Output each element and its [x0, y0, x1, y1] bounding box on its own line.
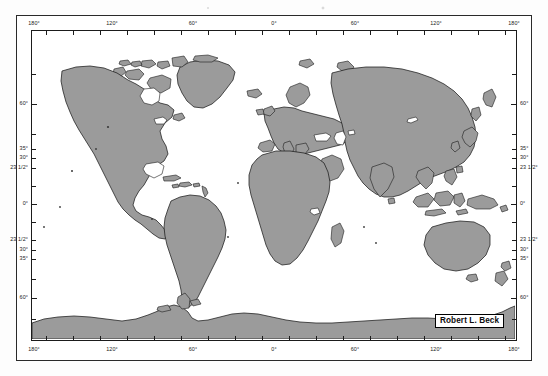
lon-label-top-0: 0° — [271, 20, 276, 26]
lat-label-left-60s: 60° — [20, 294, 28, 300]
lon-label-top-120e: 120° — [430, 20, 442, 26]
lat-label-right-equator: 0° — [520, 200, 525, 206]
lon-label-top-120w: 120° — [106, 20, 118, 26]
lon-label-bottom-180e: 180° — [508, 346, 520, 352]
sri-lanka — [388, 198, 395, 204]
jamaica — [172, 184, 179, 188]
lat-label-left-235s: 23 1/2° — [10, 236, 28, 242]
island-dot-atlantic-b — [227, 236, 229, 238]
lon-label-bottom-120e: 120° — [430, 346, 442, 352]
map-plate[interactable]: .land{fill:#9b9b9b;stroke:#1b1b1b;stroke… — [31, 30, 517, 341]
lon-label-bottom-120w: 120° — [106, 346, 118, 352]
island-dot-indian-b — [375, 242, 377, 244]
lat-label-right-35n: 35° — [520, 145, 528, 151]
lat-label-right-235s: 23 1/2° — [520, 236, 538, 242]
taiwan — [456, 166, 463, 173]
author-credit-box: Robert L. Beck — [435, 314, 504, 328]
lat-label-right-30s: 30° — [520, 246, 528, 252]
lon-label-bottom-0: 0° — [271, 346, 276, 352]
lat-label-left-equator: 0° — [23, 200, 28, 206]
island-dot-indian-a — [363, 226, 365, 228]
lat-label-left-60n: 60° — [20, 100, 28, 106]
lat-label-left-30n: 30° — [20, 154, 28, 160]
island-dot-pacific-c — [151, 218, 153, 220]
lat-label-left-35s: 35° — [20, 255, 28, 261]
island-dot-pacific-d — [59, 206, 61, 208]
island-dot-atlantic-a — [237, 182, 239, 184]
lon-label-top-180e: 180° — [508, 20, 520, 26]
lon-label-bottom-60e: 60° — [351, 346, 359, 352]
lat-label-left-235n: 23 1/2° — [10, 164, 28, 170]
puerto-rico — [193, 183, 200, 187]
lat-label-right-35s: 35° — [520, 255, 528, 261]
lat-label-left-35n: 35° — [20, 145, 28, 151]
world-map-graphic[interactable]: .land{fill:#9b9b9b;stroke:#1b1b1b;stroke… — [32, 31, 515, 339]
island-dot-hawaii — [71, 170, 73, 172]
lon-label-top-60w: 60° — [189, 20, 197, 26]
lat-label-right-235n: 23 1/2° — [520, 164, 538, 170]
aral-sea — [348, 130, 355, 135]
lat-label-left-30s: 30° — [20, 246, 28, 252]
lat-label-right-30n: 30° — [520, 154, 528, 160]
lat-label-right-60s: 60° — [520, 294, 528, 300]
page-canvas: .land{fill:#9b9b9b;stroke:#1b1b1b;stroke… — [0, 0, 548, 376]
lon-label-top-60e: 60° — [351, 20, 359, 26]
island-dot-pacific-a — [107, 126, 109, 128]
scan-artifact — [118, 5, 418, 11]
island-dot-pacific-e — [43, 226, 45, 228]
lon-label-bottom-60w: 60° — [189, 346, 197, 352]
island-dot-pacific-b — [95, 148, 97, 150]
lon-label-top-180w: 180° — [28, 20, 40, 26]
lon-label-bottom-180w: 180° — [28, 346, 40, 352]
lat-label-right-60n: 60° — [520, 100, 528, 106]
